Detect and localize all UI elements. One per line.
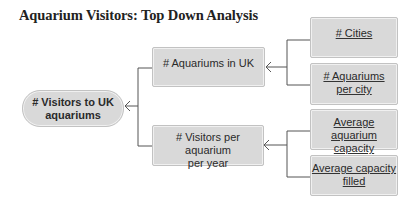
node-average-aquarium-capacity-line1: Average aquarium bbox=[331, 116, 377, 141]
node-average-aquarium-capacity[interactable]: Average aquarium capacity bbox=[310, 109, 398, 150]
node-cities-label: # Cities bbox=[336, 27, 373, 39]
connector-upper-bracket bbox=[287, 40, 310, 85]
node-average-capacity-filled[interactable]: Average capacity filled bbox=[310, 155, 398, 196]
root-node-visitors-uk[interactable]: # Visitors to UK aquariums bbox=[22, 90, 124, 127]
node-aquariums-in-uk-label: # Aquariums in UK bbox=[153, 57, 264, 70]
node-visitors-per-aquarium-line2: per year bbox=[153, 157, 263, 170]
node-cities[interactable]: # Cities bbox=[310, 17, 398, 58]
node-visitors-per-aquarium[interactable]: # Visitors per aquarium per year bbox=[152, 125, 264, 166]
node-aquariums-per-city[interactable]: # Aquariums per city bbox=[310, 63, 398, 105]
node-aquariums-per-city-line1: # Aquariums bbox=[323, 70, 384, 82]
node-aquariums-per-city-line2: per city bbox=[336, 83, 371, 95]
root-node-line2: aquariums bbox=[32, 109, 114, 122]
node-average-capacity-filled-line1: Average capacity bbox=[312, 162, 396, 174]
node-average-capacity-filled-line2: filled bbox=[343, 175, 366, 187]
node-average-aquarium-capacity-line2: capacity bbox=[334, 142, 374, 154]
connector-lower-bracket bbox=[287, 131, 310, 177]
node-visitors-per-aquarium-line1: # Visitors per aquarium bbox=[153, 131, 263, 157]
root-node-line1: # Visitors to UK bbox=[32, 96, 114, 109]
node-aquariums-in-uk[interactable]: # Aquariums in UK bbox=[152, 47, 265, 87]
connector-root-bracket bbox=[138, 68, 152, 146]
